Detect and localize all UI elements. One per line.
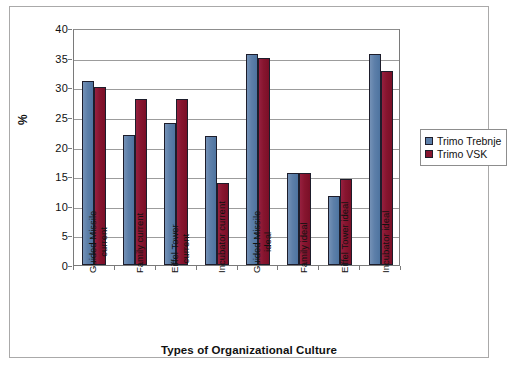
y-axis-title: % (16, 114, 30, 125)
x-axis-category-label: Family current (134, 213, 145, 273)
x-axis-category-label: Guided Missilecurrent (87, 211, 109, 273)
x-axis-category-label: Family ideal (298, 222, 309, 273)
x-axis-category-label: Eiffel Towercurrent (169, 224, 191, 273)
x-axis-tick-mark (359, 266, 360, 270)
bar[interactable] (287, 173, 299, 265)
legend-item-label: Trimo VSK (437, 148, 487, 160)
y-axis-tick-label: 40 (55, 23, 68, 35)
legend-item[interactable]: Trimo Trebnje (425, 135, 501, 147)
y-axis-tick-labels: 0510152025303540 (34, 29, 68, 266)
legend-item-label: Trimo Trebnje (437, 135, 501, 147)
x-axis-tick-mark (73, 266, 74, 270)
x-axis-tick-mark (400, 266, 401, 270)
legend-item[interactable]: Trimo VSK (425, 148, 501, 160)
x-axis-category-label: Guided Missileideal (251, 211, 273, 273)
bar[interactable] (369, 54, 381, 265)
bar[interactable] (328, 196, 340, 265)
y-axis-tick-label: 35 (55, 53, 68, 65)
plot-area (73, 29, 400, 266)
x-axis-tick-mark (318, 266, 319, 270)
x-axis-tick-mark (155, 266, 156, 270)
x-axis-category-label: Eiffel Tower ideal (339, 202, 350, 273)
chart-legend: Trimo TrebnjeTrimo VSK (420, 129, 507, 166)
chart-frame: % 0510152025303540 Guided Missilecurrent… (9, 6, 489, 358)
y-axis-tick-mark (68, 118, 72, 119)
x-axis-category-label: Incubator current (216, 201, 227, 273)
legend-swatch-icon (425, 137, 433, 145)
x-axis-category-label: Incubator ideal (380, 211, 391, 273)
y-axis-tick-mark (68, 177, 72, 178)
x-axis-tick-mark (237, 266, 238, 270)
x-axis-title: Types of Organizational Culture (10, 344, 488, 356)
y-axis-tick-mark (68, 236, 72, 237)
y-axis-tick-label: 10 (55, 201, 68, 213)
y-axis-tick-mark (68, 148, 72, 149)
legend-swatch-icon (425, 150, 433, 158)
y-axis-tick-label: 20 (55, 142, 68, 154)
y-axis-tick-mark (68, 29, 72, 30)
y-axis-tick-mark (68, 88, 72, 89)
x-axis-tick-mark (277, 266, 278, 270)
x-axis-tick-mark (114, 266, 115, 270)
y-axis-tick-label: 30 (55, 82, 68, 94)
y-axis-tick-mark (68, 59, 72, 60)
y-axis-tick-mark (68, 207, 72, 208)
bar-series-container (74, 30, 399, 265)
x-axis-tick-mark (196, 266, 197, 270)
y-axis-tick-label: 15 (55, 171, 68, 183)
y-axis-tick-label: 25 (55, 112, 68, 124)
y-axis-tick-mark (68, 266, 72, 267)
